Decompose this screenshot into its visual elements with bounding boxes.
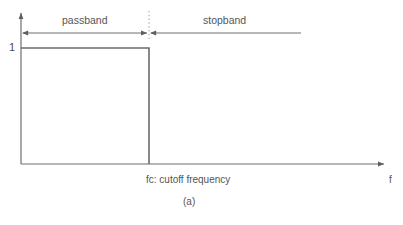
filter-response-curve bbox=[21, 48, 149, 164]
cutoff-frequency-label: fc: cutoff frequency bbox=[146, 175, 230, 185]
filter-response-figure: passband stopband 1 f fc: cutoff frequen… bbox=[0, 0, 403, 225]
stopband-label: stopband bbox=[203, 15, 246, 26]
passband-label: passband bbox=[62, 15, 108, 26]
x-axis-name-label: f bbox=[389, 175, 392, 185]
y-axis-tick-label-one: 1 bbox=[9, 42, 15, 53]
figure-caption: (a) bbox=[183, 197, 195, 207]
figure-canvas bbox=[0, 0, 403, 225]
